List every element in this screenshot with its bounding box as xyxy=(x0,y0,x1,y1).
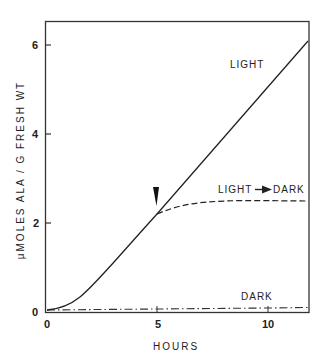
series-light-line xyxy=(47,41,308,310)
x-tick-10: 10 xyxy=(262,318,274,330)
series-dark-line xyxy=(47,308,308,311)
chart: 6 4 2 0 μMOLES ALA / G FRESH WT 0 5 10 H… xyxy=(0,0,322,359)
y-tick-4: 4 xyxy=(32,128,39,140)
label-light-to-dark-to: DARK xyxy=(273,184,305,195)
series-light-to-dark-line xyxy=(157,201,308,214)
label-light-to-dark-from: LIGHT xyxy=(218,184,252,195)
y-tick-0: 0 xyxy=(32,306,38,318)
label-dark: DARK xyxy=(241,291,273,302)
x-tick-5: 5 xyxy=(155,318,161,330)
y-tick-6: 6 xyxy=(32,39,38,51)
plot-frame xyxy=(46,22,310,313)
y-tick-2: 2 xyxy=(33,217,39,229)
y-axis-title: μMOLES ALA / G FRESH WT xyxy=(15,81,26,259)
transfer-marker-icon xyxy=(153,187,159,206)
x-axis-title: HOURS xyxy=(153,341,199,352)
x-tick-0: 0 xyxy=(44,318,50,330)
arrow-right-icon xyxy=(255,186,272,194)
label-light: LIGHT xyxy=(230,59,264,70)
